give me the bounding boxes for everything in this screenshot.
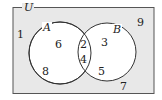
element-outside-7: 7 xyxy=(120,80,127,93)
set-a-label: A xyxy=(42,21,51,34)
element-a-and-b-2: 2 xyxy=(80,38,87,51)
element-b-only-5: 5 xyxy=(98,65,105,78)
element-a-and-b-4: 4 xyxy=(80,53,87,66)
element-a-only-6: 6 xyxy=(55,38,62,51)
set-b-circle xyxy=(78,23,136,81)
element-a-only-8: 8 xyxy=(42,65,49,78)
universe-label: U xyxy=(24,1,34,14)
venn-diagram: U A B 1 9 7 6 8 2 4 3 5 xyxy=(0,0,162,100)
element-b-only-3: 3 xyxy=(101,36,108,49)
element-outside-1: 1 xyxy=(17,28,24,41)
element-outside-9: 9 xyxy=(137,16,144,29)
set-b-label: B xyxy=(112,23,121,36)
